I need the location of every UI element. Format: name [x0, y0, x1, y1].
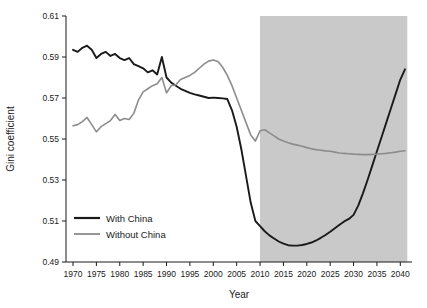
x-tick-label: 2015 [274, 269, 293, 279]
x-tick-label: 2025 [321, 269, 340, 279]
y-tick-label: 0.51 [42, 216, 59, 226]
x-tick-label: 1990 [157, 269, 176, 279]
legend-label-without-china: Without China [106, 229, 166, 240]
x-tick-label: 2040 [391, 269, 410, 279]
projection-shaded-region [260, 16, 407, 262]
x-tick-label: 2005 [227, 269, 246, 279]
y-axis-title: Gini coefficient [5, 106, 16, 172]
x-tick-label: 1995 [180, 269, 199, 279]
x-tick-label: 2035 [367, 269, 386, 279]
projection-band [260, 16, 407, 262]
y-tick-label: 0.55 [42, 134, 59, 144]
y-tick-label: 0.57 [42, 93, 59, 103]
chart-figure: 0.490.510.530.550.570.590.61 19701975198… [0, 0, 427, 308]
x-tick-label: 2000 [204, 269, 223, 279]
gini-coefficient-line-chart: 0.490.510.530.550.570.590.61 19701975198… [0, 0, 427, 308]
y-tick-label: 0.53 [42, 175, 59, 185]
legend-label-with-china: With China [106, 213, 153, 224]
x-tick-label: 1980 [110, 269, 129, 279]
x-tick-label: 2020 [297, 269, 316, 279]
x-tick-label: 1975 [87, 269, 106, 279]
x-tick-label: 1970 [64, 269, 83, 279]
x-tick-label: 2010 [251, 269, 270, 279]
y-tick-label: 0.49 [42, 257, 59, 267]
y-tick-label: 0.59 [42, 52, 59, 62]
x-axis-title: Year [229, 289, 250, 300]
x-tick-label: 2030 [344, 269, 363, 279]
y-tick-label: 0.61 [42, 11, 59, 21]
x-tick-label: 1985 [134, 269, 153, 279]
